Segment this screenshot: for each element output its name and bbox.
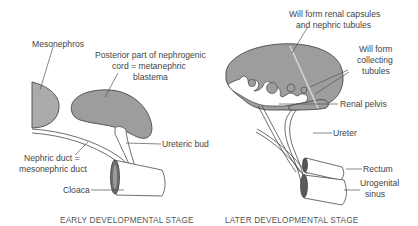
bud-1 [248, 79, 255, 86]
renal-capsules-label-line2: and nephric tubules [296, 20, 371, 30]
blastema-label-line3: blastema [133, 72, 168, 82]
kidney-duct-line-a [258, 106, 296, 172]
early-stage-panel: Mesonephros Posterior part of nephrogeni… [19, 39, 209, 225]
ureteric-bud-leader [126, 143, 161, 144]
rectum-opening [303, 158, 308, 172]
urogenital-label-line1: Urogenital [360, 178, 399, 188]
blastema-label-line1: Posterior part of nephrogenic [95, 50, 207, 60]
urogenital-label-line2: sinus [365, 189, 385, 199]
blastema-label-line2: cord = metanephric [112, 61, 187, 71]
urogenital-sinus-shape [304, 175, 346, 205]
rectum-label: Rectum [363, 164, 393, 174]
later-stage-caption: LATER DEVELOPMENTAL STAGE [225, 216, 359, 225]
cloaca-label: Cloaca [63, 185, 90, 195]
bud-3 [287, 84, 295, 92]
kidney-development-diagram: Mesonephros Posterior part of nephrogeni… [0, 0, 418, 226]
collecting-label-line1: Will form [359, 44, 392, 54]
collecting-label-line2: collecting [357, 55, 393, 65]
metanephric-blastema-shape [71, 90, 152, 138]
bud-4 [301, 87, 307, 93]
nephric-duct-label-line2: mesonephric duct [19, 164, 87, 174]
mesonephros-shape [32, 82, 59, 128]
urogenital-sinus-opening [301, 175, 308, 198]
collecting-label-line3: tubules [362, 66, 390, 76]
early-stage-caption: EARLY DEVELOPMENTAL STAGE [60, 216, 194, 225]
nephric-duct-label-line1: Nephric duct = [24, 153, 80, 163]
mesonephric-duct-remnant-a [256, 132, 304, 176]
mesonephric-duct-remnant-b [257, 129, 307, 174]
ureteric-bud-label: Ureteric bud [162, 139, 209, 149]
cloaca-opening-inner [113, 165, 117, 189]
cloaca-shape [114, 160, 165, 196]
mesonephros-leader [40, 47, 53, 90]
ureter-label: Ureter [333, 128, 357, 138]
bud-2 [267, 83, 278, 94]
renal-pelvis-label: Renal pelvis [340, 99, 387, 109]
mesonephros-label: Mesonephros [32, 39, 84, 49]
renal-capsules-label-line1: Will form renal capsules [289, 9, 380, 19]
later-stage-panel: Will form renal capsules and nephric tub… [225, 9, 399, 225]
